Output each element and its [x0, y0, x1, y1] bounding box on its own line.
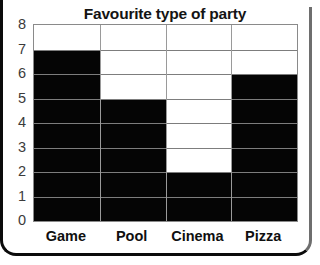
y-axis-tick-label: 4: [18, 114, 26, 130]
bar: [231, 74, 297, 221]
bars-layer: [34, 25, 297, 221]
bar-column: [231, 25, 297, 221]
plot-area: [33, 24, 298, 222]
bar-column: [100, 25, 166, 221]
y-axis-tick-label: 0: [18, 212, 26, 228]
x-axis: GamePoolCinemaPizza: [33, 226, 298, 248]
x-axis-tick-label: Pool: [99, 226, 165, 248]
bar-column: [166, 25, 232, 221]
x-axis-tick-label: Cinema: [165, 226, 231, 248]
y-axis-tick-label: 6: [18, 65, 26, 81]
bar-chart: Favourite type of party 012345678 GamePo…: [0, 0, 320, 265]
y-axis-tick-label: 8: [18, 16, 26, 32]
x-axis-tick-label: Pizza: [230, 226, 296, 248]
y-axis-tick-label: 1: [18, 188, 26, 204]
bar: [100, 99, 166, 222]
x-axis-tick-label: Game: [33, 226, 99, 248]
y-axis-tick-label: 5: [18, 90, 26, 106]
y-axis-tick-label: 2: [18, 163, 26, 179]
bar: [166, 172, 232, 221]
y-axis-tick-label: 7: [18, 41, 26, 57]
y-axis-tick-label: 3: [18, 139, 26, 155]
chart-title: Favourite type of party: [30, 4, 300, 23]
bar-column: [34, 25, 100, 221]
bar: [34, 50, 100, 222]
y-axis: 012345678: [0, 24, 31, 222]
